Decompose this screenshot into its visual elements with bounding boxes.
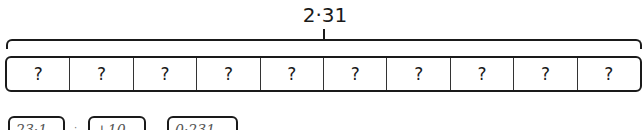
bracket-tick xyxy=(323,29,325,39)
bar-cell: ? xyxy=(261,58,324,90)
total-label: 2·31 xyxy=(300,4,350,26)
bar-cell: ? xyxy=(7,58,70,90)
option-box-1[interactable]: 23·1 xyxy=(8,116,65,130)
bar-cell: ? xyxy=(387,58,450,90)
bar-model: ? ? ? ? ? ? ? ? ? ? xyxy=(5,56,642,92)
bracket xyxy=(6,39,642,49)
option-box-2[interactable]: +10 xyxy=(88,116,146,130)
bar-cell: ? xyxy=(134,58,197,90)
bar-cell: ? xyxy=(514,58,577,90)
bar-cell: ? xyxy=(451,58,514,90)
bar-cell: ? xyxy=(578,58,640,90)
option-separator: · xyxy=(74,122,77,130)
bar-cell: ? xyxy=(197,58,260,90)
option-box-3[interactable]: 0·231 xyxy=(167,116,238,130)
bar-cell: ? xyxy=(324,58,387,90)
bar-cell: ? xyxy=(70,58,133,90)
